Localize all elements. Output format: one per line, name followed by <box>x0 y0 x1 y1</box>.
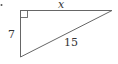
problem-marker-dot <box>1 4 3 6</box>
side-label-x: x <box>58 0 65 11</box>
triangle-shape <box>21 11 113 58</box>
side-label-7: 7 <box>8 28 15 41</box>
right-triangle-diagram: x 7 15 <box>0 0 118 64</box>
hypotenuse-label-15: 15 <box>64 36 78 49</box>
right-angle-marker <box>21 11 28 18</box>
